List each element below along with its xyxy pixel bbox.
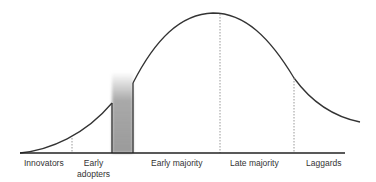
curve-left-segment <box>20 103 112 153</box>
label-early-majority: Early majority <box>151 158 202 169</box>
chasm-shading <box>112 72 133 153</box>
label-innovators: Innovators <box>24 158 64 169</box>
label-laggards: Laggards <box>306 158 341 169</box>
curve-right-segment <box>133 13 360 122</box>
label-early-adopters-line2: adopters <box>77 169 110 179</box>
adoption-curve-diagram <box>0 0 376 182</box>
label-early-adopters-line1: Early <box>84 158 103 168</box>
label-early-adopters: Early adopters <box>77 158 110 180</box>
label-late-majority: Late majority <box>230 158 279 169</box>
